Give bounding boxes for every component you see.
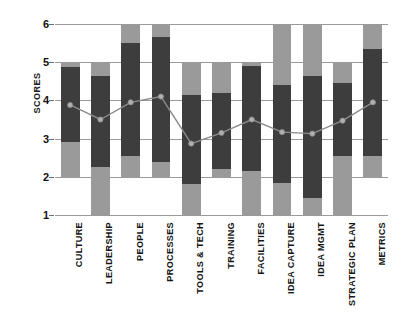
- line-data-point[interactable]: [98, 117, 103, 122]
- line-data-point[interactable]: [189, 141, 194, 146]
- x-axis-label: IDEA MGMT: [316, 222, 326, 277]
- x-axis-label: TRAINING: [226, 222, 236, 269]
- line-data-point[interactable]: [340, 118, 345, 123]
- line-data-point[interactable]: [279, 130, 284, 135]
- y-tick-label: 1: [43, 209, 49, 221]
- line-data-point[interactable]: [68, 102, 73, 107]
- x-axis-label: IDEA CAPTURE: [286, 222, 296, 294]
- chart-root: SCORES 123456 CULTURELEADERSHIPPEOPLEPRO…: [0, 0, 403, 328]
- x-axis-label: TOOLS & TECH: [195, 222, 205, 294]
- x-axis-labels-group: CULTURELEADERSHIPPEOPLEPROCESSESTOOLS & …: [55, 218, 388, 326]
- line-series-overlay: [55, 24, 388, 215]
- x-axis-label: LEADERSHIP: [104, 222, 114, 284]
- x-axis-label: STRATEGIC PLAN: [347, 222, 357, 306]
- line-data-point[interactable]: [370, 100, 375, 105]
- y-tick-mark: [49, 62, 54, 63]
- y-tick-label: 5: [43, 56, 49, 68]
- y-tick-label: 4: [43, 94, 49, 106]
- plot-area: 123456: [55, 24, 388, 215]
- x-axis-label: CULTURE: [74, 222, 84, 267]
- line-data-point[interactable]: [219, 130, 224, 135]
- line-data-point[interactable]: [128, 100, 133, 105]
- y-tick-mark: [49, 139, 54, 140]
- line-data-point[interactable]: [310, 131, 315, 136]
- x-axis-label: METRICS: [377, 222, 387, 265]
- y-tick-label: 2: [43, 171, 49, 183]
- y-tick-mark: [49, 100, 54, 101]
- y-axis-label: SCORES: [32, 58, 42, 128]
- x-axis-label: FACILITIES: [256, 222, 266, 275]
- y-tick-mark: [49, 177, 54, 178]
- y-tick-mark: [49, 24, 54, 25]
- line-data-point[interactable]: [249, 117, 254, 122]
- x-axis-label: PEOPLE: [135, 222, 145, 261]
- x-axis-label: PROCESSES: [165, 222, 175, 282]
- mean-score-line: [70, 97, 373, 144]
- y-tick-label: 6: [43, 18, 49, 30]
- y-tick-label: 3: [43, 133, 49, 145]
- line-data-point[interactable]: [158, 94, 163, 99]
- gridline: 1: [55, 215, 388, 216]
- y-tick-mark: [49, 215, 54, 216]
